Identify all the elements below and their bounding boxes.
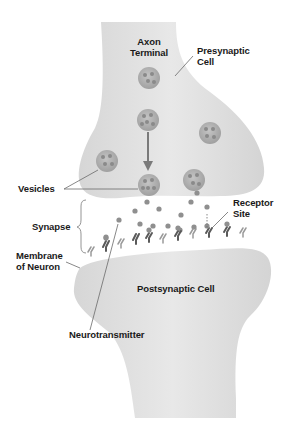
presynaptic-cell-label: Presynaptic Cell <box>197 45 250 67</box>
axon-terminal-label-line2: Terminal <box>118 47 180 58</box>
membrane-label-line2: of Neuron <box>16 261 63 272</box>
presynaptic-cell-label-line2: Cell <box>197 56 250 67</box>
presynaptic-cell-label-line1: Presynaptic <box>197 45 250 56</box>
membrane-leader <box>66 262 80 268</box>
receptor-site-label-line2: Site <box>233 208 273 219</box>
membrane-of-neuron-label: Membrane of Neuron <box>16 250 63 272</box>
axon-terminal-label: Axon Terminal <box>118 36 180 58</box>
vesicles-label: Vesicles <box>18 183 55 194</box>
synapse-diagram: Axon Terminal Presynaptic Cell Vesicles … <box>0 0 294 432</box>
axon-terminal-label-line1: Axon <box>118 36 180 47</box>
vesicle <box>138 174 160 196</box>
membrane-label-line1: Membrane <box>16 250 63 261</box>
synapse-label: Synapse <box>32 221 70 232</box>
receptor-site-label-line1: Receptor <box>233 197 273 208</box>
vesicle <box>199 122 221 144</box>
vesicle <box>138 67 160 89</box>
receptor-site-label: Receptor Site <box>233 197 273 219</box>
vesicle <box>96 150 118 172</box>
synapse-bracket <box>77 200 86 253</box>
postsynaptic-cell-label: Postsynaptic Cell <box>137 283 215 294</box>
vesicle <box>183 169 205 191</box>
neurotransmitter-label: Neurotransmitter <box>69 329 144 340</box>
vesicle <box>137 109 159 131</box>
